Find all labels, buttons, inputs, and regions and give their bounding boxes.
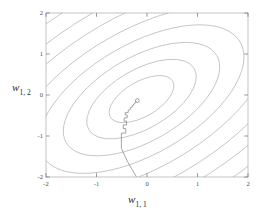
plot-canvas: -2 -1 0 1 2 2 1 0 -1 -2 w 1, 2 w 1, 1: [0, 0, 266, 214]
x-axis-label: w 1, 1: [128, 193, 147, 209]
y-axis-label-sub: 1, 2: [20, 88, 32, 97]
x-tick-labels: -2 -1 0 1 2: [43, 180, 249, 187]
y-tick-label: 2: [40, 9, 43, 16]
contour-plot-figure: -2 -1 0 1 2 2 1 0 -1 -2 w 1, 2 w 1, 1: [0, 0, 266, 214]
y-tick-labels: 2 1 0 -1 -2: [38, 9, 43, 180]
y-tick-label: -1: [38, 132, 43, 139]
y-axis-label: w 1, 2: [12, 81, 31, 97]
y-tick-label: 0: [40, 91, 43, 98]
y-tick-label: -2: [38, 173, 43, 180]
x-tick-label: -1: [94, 180, 99, 187]
x-axis-label-sub: 1, 1: [136, 200, 148, 209]
y-tick-label: 1: [40, 50, 43, 57]
x-tick-label: 2: [246, 180, 249, 187]
x-tick-label: 1: [196, 180, 199, 187]
plot-background: [46, 13, 248, 177]
x-tick-label: 0: [145, 180, 148, 187]
x-tick-label: -2: [43, 180, 48, 187]
